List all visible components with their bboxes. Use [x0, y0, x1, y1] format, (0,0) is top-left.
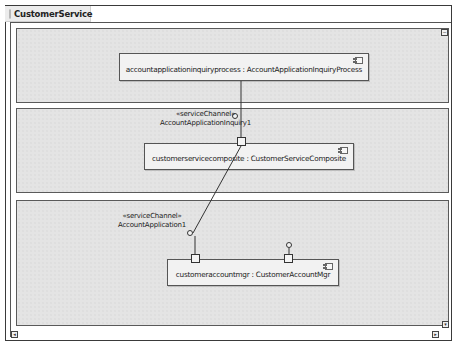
port-customeraccountmgr-left[interactable]	[191, 254, 200, 263]
channel-label-application[interactable]: «serviceChannel» AccountApplication1	[118, 212, 186, 230]
connector-application-diagonal[interactable]	[193, 146, 241, 233]
channel-label-inquiry[interactable]: «serviceChannel» AccountApplicationInqui…	[160, 110, 251, 128]
port-customeraccountmgr-right[interactable]	[284, 254, 293, 263]
connector-lines	[0, 0, 457, 347]
scroll-down-button[interactable]: ▾	[442, 321, 449, 328]
port-customerservicecomposite[interactable]	[237, 137, 246, 146]
channel-stereotype: «serviceChannel»	[160, 110, 251, 119]
collapse-button[interactable]: −	[441, 29, 448, 36]
channel-name: AccountApplicationInquiry1	[160, 119, 251, 128]
scroll-left-button[interactable]: ◂	[11, 331, 18, 338]
channel-stereotype: «serviceChannel»	[118, 212, 186, 221]
scroll-right-button[interactable]: ▸	[432, 331, 439, 338]
interface-lollipop-accountmgr[interactable]	[286, 242, 292, 248]
interface-lollipop-application[interactable]	[187, 230, 193, 236]
channel-name: AccountApplication1	[118, 221, 186, 230]
